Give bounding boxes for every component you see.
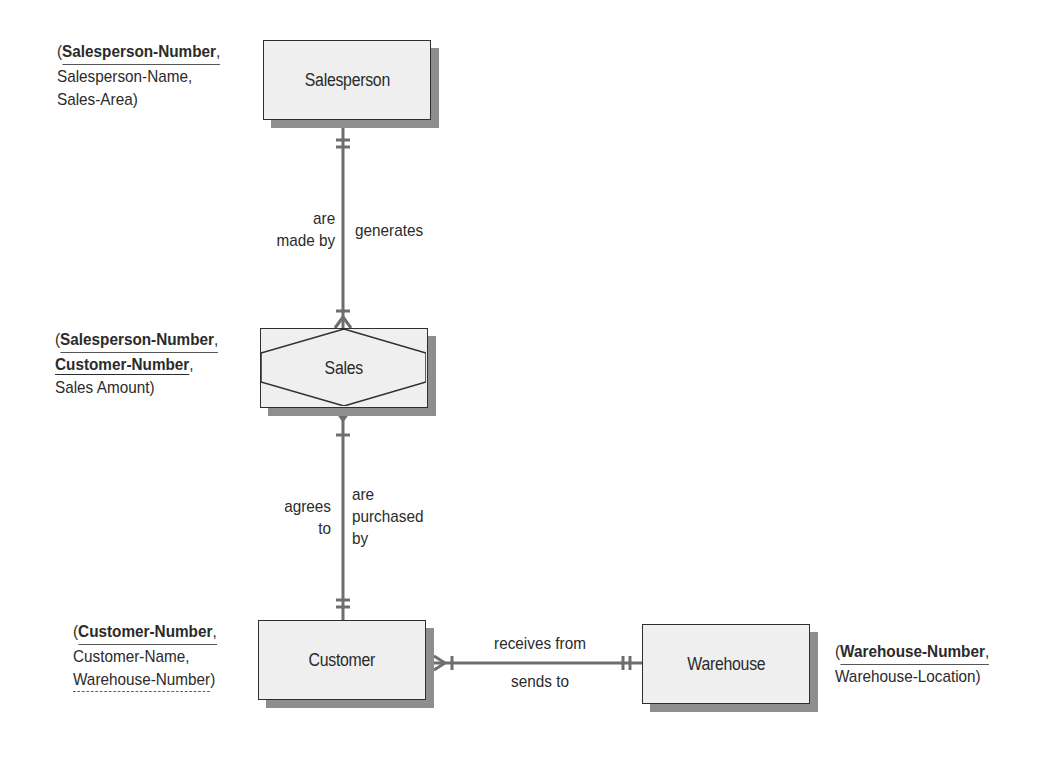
rel-text: sends to <box>490 671 591 693</box>
rel-text: purchased <box>352 506 423 528</box>
entity-customer[interactable]: Customer <box>258 620 426 700</box>
attr-warehouse-number-fk: Warehouse-Number <box>73 668 210 692</box>
entity-warehouse[interactable]: Warehouse <box>642 624 810 704</box>
attr-sales-area: Sales-Area) <box>57 88 220 111</box>
attr-customer-number-pk: Customer-Number <box>78 622 212 641</box>
attr-customer-number-pk: Customer-Number <box>55 355 189 374</box>
customer-attributes: (Customer-Number, Customer-Name, Warehou… <box>73 620 217 692</box>
comma: , <box>189 355 193 374</box>
warehouse-attributes: (Warehouse-Number, Warehouse-Location) <box>835 640 989 688</box>
rel-label-sends-to: sends to <box>490 671 591 693</box>
rel-label-are-made-by: are made by <box>276 208 335 252</box>
comma: , <box>212 622 216 641</box>
attr-warehouse-location: Warehouse-Location) <box>835 665 989 688</box>
attr-salesperson-name: Salesperson-Name, <box>57 65 220 88</box>
entity-sales-label: Sales <box>325 358 363 379</box>
entity-sales[interactable]: Sales <box>260 328 428 408</box>
rel-label-generates: generates <box>355 220 423 242</box>
rel-text: generates <box>355 220 423 242</box>
er-diagram-canvas: Salesperson Sales Customer Warehouse (Sa… <box>0 0 1060 760</box>
comma: , <box>216 42 220 61</box>
rel-text: are <box>276 208 335 230</box>
rel-label-are-purchased-by: are purchased by <box>352 484 423 550</box>
rel-text: are <box>352 484 423 506</box>
entity-salesperson-label: Salesperson <box>304 70 389 91</box>
rel-label-agrees-to: agrees to <box>284 496 331 540</box>
rel-text: receives from <box>490 633 591 655</box>
attr-salesperson-number-pk: Salesperson-Number <box>60 330 214 349</box>
attr-customer-name: Customer-Name, <box>73 645 217 668</box>
comma: , <box>214 330 218 349</box>
sales-attributes: (Salesperson-Number, Customer-Number, Sa… <box>55 328 218 399</box>
entity-customer-label: Customer <box>309 650 376 671</box>
rel-text: to <box>284 518 331 540</box>
rel-text: made by <box>276 230 335 252</box>
attr-sales-amount: Sales Amount) <box>55 376 218 399</box>
rel-label-receives-from: receives from <box>490 633 591 655</box>
paren-close: ) <box>210 670 215 689</box>
attr-salesperson-number-pk: Salesperson-Number <box>62 42 216 61</box>
salesperson-attributes: (Salesperson-Number, Salesperson-Name, S… <box>57 40 220 111</box>
entity-salesperson[interactable]: Salesperson <box>263 40 431 120</box>
rel-text: agrees <box>284 496 331 518</box>
rel-text: by <box>352 528 423 550</box>
comma: , <box>985 642 989 661</box>
attr-warehouse-number-pk: Warehouse-Number <box>840 642 985 661</box>
entity-warehouse-label: Warehouse <box>687 654 765 675</box>
